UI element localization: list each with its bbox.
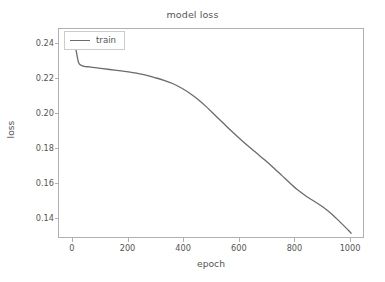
x-tick-label: 800: [274, 243, 314, 253]
chart-figure: model loss loss epoch 0.140.160.180.200.…: [0, 0, 385, 282]
x-axis-label: epoch: [58, 258, 364, 269]
y-tick-label: 0.20: [14, 108, 54, 118]
y-tick-label: 0.14: [14, 213, 54, 223]
legend-label-train: train: [96, 36, 116, 45]
y-tick-label: 0.16: [14, 178, 54, 188]
x-tick-label: 400: [163, 243, 203, 253]
x-tick-label: 0: [52, 243, 92, 253]
y-tick-label: 0.18: [14, 143, 54, 153]
x-tick-label: 1000: [330, 243, 370, 253]
x-tick-label: 600: [219, 243, 259, 253]
y-tick-label: 0.24: [14, 38, 54, 48]
train-loss-curve: [73, 36, 351, 233]
series-train-line: [59, 29, 365, 239]
chart-title: model loss: [0, 9, 385, 20]
y-tick-label: 0.22: [14, 73, 54, 83]
chart-legend: train: [64, 31, 125, 50]
plot-area: [58, 28, 364, 238]
legend-line-swatch-train: [70, 40, 90, 41]
x-tick-label: 200: [108, 243, 148, 253]
